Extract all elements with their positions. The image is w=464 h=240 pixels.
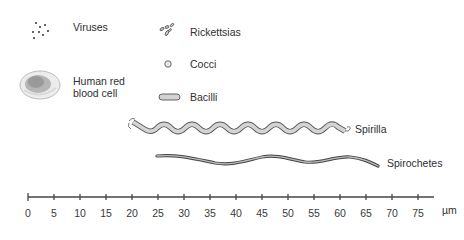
label-red-blood-cell: Human red blood cell bbox=[73, 75, 125, 99]
tick-label: 65 bbox=[360, 207, 372, 219]
tick-label: 40 bbox=[230, 207, 242, 219]
tick-label: 20 bbox=[126, 207, 138, 219]
coccus-circle-icon bbox=[165, 61, 171, 67]
tick-label: 50 bbox=[282, 207, 294, 219]
rickettsia-icon bbox=[159, 23, 174, 36]
red-blood-cell-icon bbox=[20, 71, 60, 99]
tick-label: 0 bbox=[25, 207, 31, 219]
tick-label: 70 bbox=[386, 207, 398, 219]
tick-label: 75 bbox=[412, 207, 424, 219]
unit-label: µm bbox=[442, 204, 457, 216]
label-spirilla: Spirilla bbox=[355, 123, 387, 135]
bacillus-rod-icon bbox=[159, 94, 180, 100]
tick-label: 55 bbox=[308, 207, 320, 219]
label-bacilli: Bacilli bbox=[190, 91, 217, 103]
spirochete-icon bbox=[157, 156, 378, 166]
spirillum-icon bbox=[128, 118, 350, 131]
label-rickettsias: Rickettsias bbox=[190, 26, 241, 38]
tick-label: 15 bbox=[100, 207, 112, 219]
tick-label: 30 bbox=[178, 207, 190, 219]
tick-label: 25 bbox=[152, 207, 164, 219]
virus-dots-icon bbox=[32, 22, 49, 39]
tick-label: 45 bbox=[256, 207, 268, 219]
label-viruses: Viruses bbox=[73, 21, 108, 33]
scale-axis bbox=[28, 193, 434, 201]
tick-label: 10 bbox=[74, 207, 86, 219]
tick-label: 35 bbox=[204, 207, 216, 219]
label-cocci: Cocci bbox=[190, 58, 216, 70]
label-spirochetes: Spirochetes bbox=[387, 157, 442, 169]
tick-label: 5 bbox=[51, 207, 57, 219]
tick-label: 60 bbox=[334, 207, 346, 219]
